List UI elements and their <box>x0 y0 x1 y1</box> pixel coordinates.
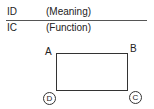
legend-code-id: ID <box>7 7 17 17</box>
corner-label-d-circled: D <box>43 92 56 105</box>
legend-code-ic: IC <box>7 23 17 33</box>
legend-desc-meaning: (Meaning) <box>46 7 91 17</box>
rectangle-shape <box>56 53 128 91</box>
corner-label-a: A <box>45 47 52 57</box>
legend-desc-function: (Function) <box>46 23 91 33</box>
corner-label-c-circled: C <box>129 91 142 104</box>
corner-label-b: B <box>130 44 137 54</box>
legend-divider <box>6 20 147 21</box>
